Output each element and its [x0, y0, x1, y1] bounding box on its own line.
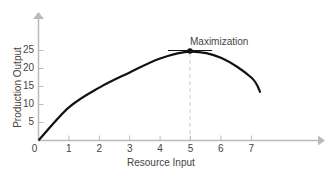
max-annotation-label: Maximization	[190, 36, 248, 47]
x-tick-label: 1	[63, 143, 75, 154]
production-curve	[39, 52, 261, 141]
x-tick-label: 7	[245, 143, 257, 154]
x-tick-label: 6	[215, 143, 227, 154]
chart-canvas	[0, 0, 335, 180]
y-axis-arrow-icon	[33, 12, 44, 19]
x-tick-label: 4	[154, 143, 166, 154]
x-tick-label: 3	[124, 143, 136, 154]
x-tick-label: 2	[93, 143, 105, 154]
x-tick-label: 5	[185, 143, 197, 154]
max-point-marker	[187, 48, 193, 54]
x-tick-label: 0	[29, 143, 41, 154]
production-chart: 510152025 01234567 Maximization Resource…	[0, 0, 335, 180]
y-axis-title: Production Output	[12, 43, 23, 133]
x-axis-title: Resource Input	[127, 157, 195, 168]
x-axis-arrow-icon	[318, 136, 325, 146]
